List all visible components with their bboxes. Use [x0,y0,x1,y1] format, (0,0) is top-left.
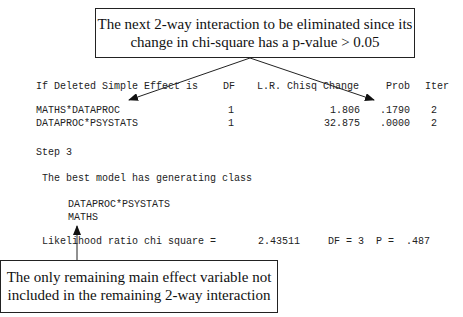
row-prob: .1790 [380,105,410,117]
arrow-to-prob [250,58,374,100]
bottom-callout-box: The only remaining main effect variable … [0,260,278,313]
arrow-to-effect [129,58,250,100]
row-df: 1 [228,118,234,130]
likelihood-label: Likelihood ratio chi square = [42,236,216,248]
row-effect: DATAPROC*PSYSTATS [36,118,138,130]
likelihood-p: P = .487 [376,236,430,248]
row-iter: 2 [431,118,437,130]
step-label: Step 3 [36,147,72,159]
model-term: DATAPROC*PSYSTATS [68,199,170,211]
row-prob: .0000 [380,118,410,130]
row-chisq: 32.875 [300,118,360,130]
header-prob: Prob [386,81,410,93]
likelihood-value: 2.43511 [258,236,300,248]
header-df: DF [223,81,235,93]
bottom-callout-line1: The only remaining main effect variable … [1,268,277,286]
bottom-callout-line2: included in the remaining 2-way interact… [1,286,277,304]
top-callout-box: The next 2-way interaction to be elimina… [95,8,415,58]
top-callout-line2: change in chi-square has a p-value > 0.0… [96,33,414,51]
row-chisq: 1.806 [300,105,360,117]
header-iter: Iter [425,81,449,93]
likelihood-df: DF = 3 [328,236,364,248]
model-term: MATHS [68,212,98,224]
row-effect: MATHS*DATAPROC [36,105,120,117]
top-callout-line1: The next 2-way interaction to be elimina… [96,15,414,33]
header-chisq: L.R. Chisq Change [257,81,359,93]
best-model-heading: The best model has generating class [42,173,252,185]
header-effect: If Deleted Simple Effect is [36,81,198,93]
row-iter: 2 [431,105,437,117]
row-df: 1 [228,105,234,117]
